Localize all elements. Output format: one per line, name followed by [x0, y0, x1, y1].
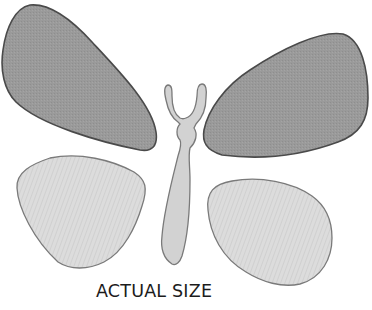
lower-right-wing: [208, 179, 332, 285]
figure-caption: ACTUAL SIZE: [96, 281, 226, 301]
butterfly-illustration: [0, 0, 372, 310]
butterfly-template-figure: ACTUAL SIZE: [0, 0, 372, 310]
upper-left-wing: [2, 5, 156, 151]
lower-left-wing: [17, 156, 145, 268]
butterfly-body: [162, 84, 207, 265]
upper-right-wing: [204, 33, 368, 157]
